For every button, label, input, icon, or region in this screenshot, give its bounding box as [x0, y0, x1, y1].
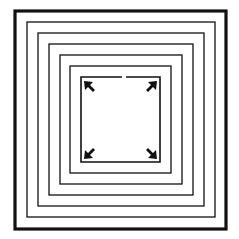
arrow-top-left-icon [84, 81, 95, 92]
arrow-top-right-icon [146, 81, 157, 92]
arrow-bottom-right-icon [146, 148, 157, 159]
arrow-bottom-left-icon [84, 148, 95, 159]
concentric-squares-diagram [0, 0, 239, 239]
square-2 [27, 22, 215, 217]
square-3 [38, 33, 204, 206]
square-5 [60, 55, 182, 184]
corner-arrow-group [84, 81, 157, 159]
square-group [15, 11, 226, 229]
